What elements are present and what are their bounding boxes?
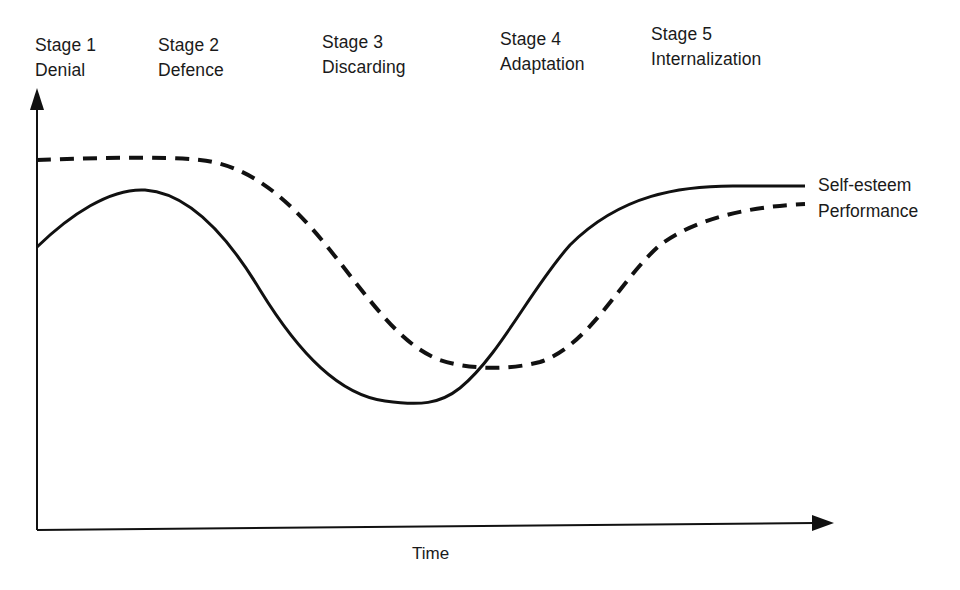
legend-performance: Performance	[818, 201, 918, 222]
legend-self-esteem: Self-esteem	[818, 175, 911, 196]
y-axis-arrow-icon	[30, 88, 44, 110]
x-axis-label: Time	[412, 544, 449, 564]
self-esteem-line	[37, 186, 805, 403]
chart-canvas	[0, 0, 960, 590]
x-axis	[37, 523, 815, 530]
x-axis-arrow-icon	[812, 515, 834, 531]
